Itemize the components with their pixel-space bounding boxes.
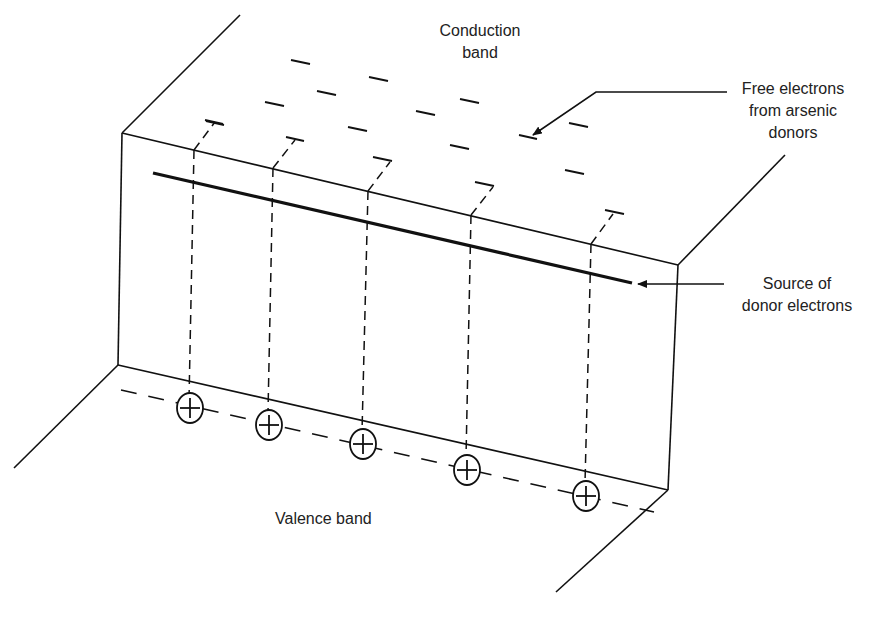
right-vertical-edge (668, 265, 678, 490)
band-gap-face (118, 133, 678, 490)
annotation-arrows (533, 92, 727, 284)
electron-icon (460, 99, 479, 103)
electron-icon (265, 102, 284, 106)
electron-icon (373, 157, 392, 161)
electron-icon (565, 170, 584, 174)
circled-plus-icon (350, 429, 376, 459)
valence-band-edges (14, 365, 668, 592)
electron-icon (569, 123, 588, 127)
electron-icon (369, 77, 388, 81)
electron-icon (416, 111, 435, 115)
circled-plus-icon (177, 393, 203, 423)
donor-level-line (153, 173, 632, 283)
free-electrons-label: Free electrons from arsenic donors (728, 78, 858, 144)
electron-icon (519, 135, 537, 139)
circled-plus-icon (256, 410, 282, 440)
bottom-right-edge (556, 490, 668, 592)
electron-icon (317, 91, 336, 95)
circled-plus-icon (454, 455, 480, 485)
donor-ions (177, 393, 599, 511)
free-electrons-leader (533, 92, 727, 135)
electron-icon (450, 145, 469, 149)
electron-icon (348, 127, 367, 131)
back-right-edge (678, 155, 785, 265)
electron-icon (291, 60, 310, 64)
conduction-band-label: Conduction band (410, 20, 550, 64)
valence-band-label: Valence band (275, 508, 372, 530)
bottom-left-edge (14, 365, 118, 468)
donor-source-label: Source of donor electrons (727, 273, 867, 317)
left-vertical-edge (118, 133, 122, 365)
back-left-edge (122, 15, 240, 133)
electron-icon (475, 182, 494, 186)
electron-icon (605, 210, 624, 214)
free-electrons (205, 60, 624, 214)
front-top-edge (122, 133, 678, 265)
circled-plus-icon (573, 481, 599, 511)
